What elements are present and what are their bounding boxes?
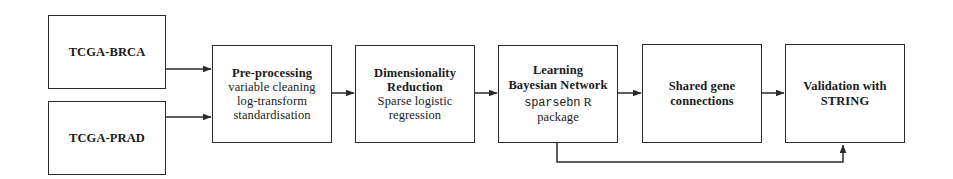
node-learning-bayesian-network-title-2: Bayesian Network (508, 78, 607, 92)
node-learning-bayesian-network-package-tail: R (580, 95, 591, 109)
pipeline-diagram: TCGA-BRCA TCGA-PRAD Pre-processing varia… (0, 0, 953, 179)
node-shared-gene-connections-title-1: Shared gene (669, 79, 736, 93)
node-dimensionality-reduction-method-2: regression (389, 108, 441, 122)
node-pre-processing-step-2: log-transform (237, 94, 307, 108)
node-learning-bayesian-network[interactable]: Learning Bayesian Network sparsebn R pac… (498, 45, 618, 143)
node-dimensionality-reduction-title-2: Reduction (387, 80, 443, 94)
node-tcga-brca[interactable]: TCGA-BRCA (48, 15, 166, 89)
node-validation-with-string[interactable]: Validation with STRING (785, 44, 905, 143)
node-learning-bayesian-network-title-1: Learning (533, 63, 583, 77)
node-learning-bayesian-network-package-line: sparsebn R (524, 92, 591, 111)
node-learning-bayesian-network-package-name: sparsebn (524, 96, 580, 110)
node-dimensionality-reduction-method-1: Sparse logistic (378, 94, 453, 108)
node-pre-processing[interactable]: Pre-processing variable cleaning log-tra… (212, 45, 332, 143)
edge-bayes-to-valid-bypass (557, 143, 843, 162)
node-dimensionality-reduction[interactable]: Dimensionality Reduction Sparse logistic… (355, 45, 475, 143)
node-learning-bayesian-network-package-word: package (537, 110, 579, 124)
node-validation-with-string-title-2: STRING (821, 94, 870, 108)
node-validation-with-string-title-1: Validation with (803, 79, 886, 93)
node-pre-processing-title: Pre-processing (232, 66, 312, 80)
node-tcga-prad[interactable]: TCGA-PRAD (48, 101, 166, 175)
node-shared-gene-connections[interactable]: Shared gene connections (642, 44, 762, 143)
node-tcga-brca-label: TCGA-BRCA (69, 45, 146, 59)
node-tcga-prad-label: TCGA-PRAD (69, 131, 145, 145)
node-pre-processing-step-3: standardisation (233, 108, 310, 122)
node-shared-gene-connections-title-2: connections (670, 94, 734, 108)
node-dimensionality-reduction-title-1: Dimensionality (374, 66, 456, 80)
node-pre-processing-step-1: variable cleaning (228, 80, 315, 94)
